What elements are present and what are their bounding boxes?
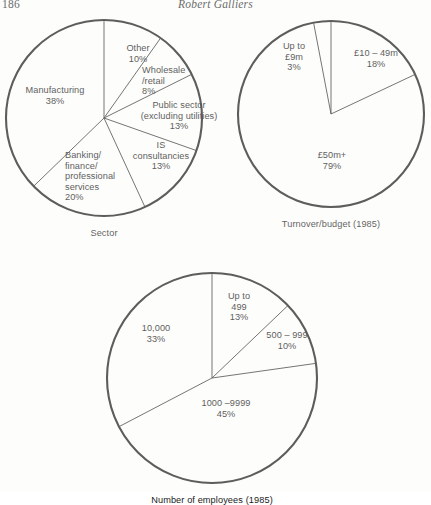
pie-slice-label-line: 10%	[258, 341, 316, 352]
pie-slice-label-line: professional	[65, 171, 137, 182]
pie-chart-number-of-employees	[101, 267, 323, 489]
chart-caption-turnover-budget: Turnover/budget (1985)	[191, 219, 431, 229]
pie-slice-label-line: 1000 –9999	[191, 398, 261, 409]
pie-slice-label-line: 10,000	[132, 323, 180, 334]
pie-slice-label-turnover-budget-2: Up to£9m3%	[272, 41, 316, 73]
running-head: 186 Robert Galliers	[0, 0, 431, 12]
pie-slice-label-number-of-employees-1: 500 – 99910%	[258, 330, 316, 351]
chart-caption-number-of-employees: Number of employees (1985)	[72, 495, 352, 505]
pie-slice-label-line: Up to	[272, 41, 316, 52]
pie-slice-label-line: 499	[218, 302, 260, 313]
pie-slice-label-line: Other	[108, 43, 168, 54]
pie-slice-label-sector-0: Other10%	[108, 43, 168, 64]
pie-slice-label-sector-4: Banking/finance/professionalservices20%	[65, 150, 137, 203]
pie-slice-label-line: 20%	[65, 192, 137, 203]
pie-slice-label-line: finance/	[65, 161, 137, 172]
pie-slice-label-sector-5: Manufacturing38%	[18, 85, 92, 106]
pie-slice-label-line: £9m	[272, 52, 316, 63]
pie-slice-label-number-of-employees-0: Up to49913%	[218, 291, 260, 323]
pie-chart-svg-turnover-budget	[232, 15, 430, 213]
chart-caption-sector: Sector	[0, 228, 244, 238]
pie-slice-label-sector-1: Wholesale/retail8%	[142, 65, 202, 97]
pie-slice-label-line: £10 – 49m	[343, 48, 409, 59]
pie-slice-label-number-of-employees-3: 10,00033%	[132, 323, 180, 344]
pie-slice-label-line: Public sector	[131, 100, 227, 111]
pie-slice-label-line: 45%	[191, 409, 261, 420]
pie-slice-label-line: Wholesale	[142, 65, 202, 76]
pie-slice-label-line: IS	[126, 140, 196, 151]
pie-slice-label-line: (excluding utilities)	[131, 111, 227, 122]
pie-slice-label-line: Banking/	[65, 150, 137, 161]
pie-slice-label-line: 18%	[343, 59, 409, 70]
pie-chart-svg-number-of-employees	[101, 267, 323, 489]
pie-slice-label-line: 38%	[18, 96, 92, 107]
pie-slice-label-line: 8%	[142, 86, 202, 97]
pie-slice-label-line: 79%	[305, 161, 359, 172]
pie-slice-label-sector-2: Public sector(excluding utilities)13%	[131, 100, 227, 132]
pie-slice-label-line: 500 – 999	[258, 330, 316, 341]
pie-slice-label-line: 10%	[108, 54, 168, 65]
pie-slice-label-turnover-budget-0: £10 – 49m18%	[343, 48, 409, 69]
pie-slice-label-line: /retail	[142, 76, 202, 87]
running-head-title: Robert Galliers	[0, 0, 431, 10]
pie-slice-label-line: services	[65, 182, 137, 193]
pie-slice-label-number-of-employees-2: 1000 –999945%	[191, 398, 261, 419]
pie-slice-label-turnover-budget-1: £50m+79%	[305, 150, 359, 171]
pie-slice-label-line: Manufacturing	[18, 85, 92, 96]
pie-chart-turnover-budget	[232, 15, 430, 213]
pie-slice-label-line: £50m+	[305, 150, 359, 161]
pie-slice-label-line: 13%	[131, 121, 227, 132]
pie-slice-label-line: 3%	[272, 62, 316, 73]
pie-slice-label-line: Up to	[218, 291, 260, 302]
pie-slice-label-line: 13%	[218, 312, 260, 323]
pie-slice-label-line: 33%	[132, 334, 180, 345]
